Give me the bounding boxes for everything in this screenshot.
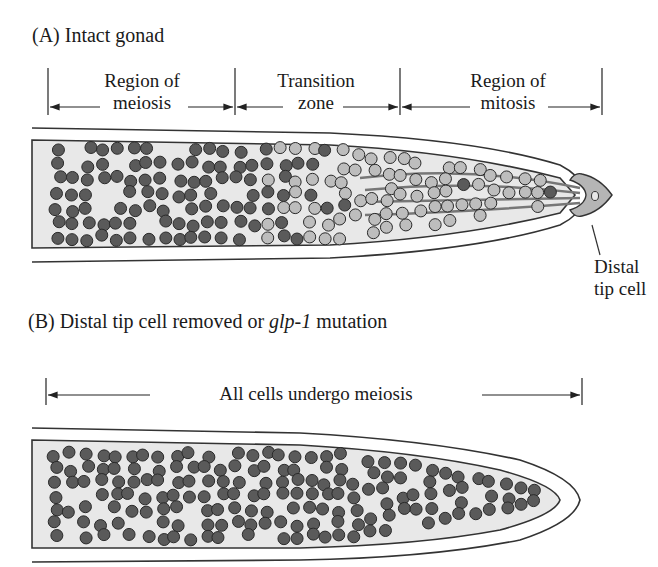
panel-a-gonad [32, 128, 612, 262]
transition-zone-label: Transition zone [268, 70, 364, 114]
region-mitosis-line1: Region of [460, 70, 556, 92]
region-meiosis-line1: Region of [92, 70, 192, 92]
region-mitosis-line2: mitosis [460, 92, 556, 114]
panel-b-title-gene: glp-1 [269, 310, 311, 332]
distal-tip-cell [570, 174, 612, 217]
panel-b-title-prefix: (B) Distal tip cell removed or [28, 310, 269, 332]
all-cells-meiosis-label: All cells undergo meiosis [150, 383, 482, 405]
panel-b-title: (B) Distal tip cell removed or glp-1 mut… [28, 310, 387, 333]
distal-tip-cell-line2: tip cell [594, 278, 658, 300]
panel-b-title-suffix: mutation [311, 310, 387, 332]
transition-zone-line2: zone [268, 92, 364, 114]
region-mitosis-label: Region of mitosis [460, 70, 556, 114]
transition-zone-line1: Transition [268, 70, 364, 92]
panel-a-title: (A) Intact gonad [32, 24, 164, 47]
region-meiosis-label: Region of meiosis [92, 70, 192, 114]
region-meiosis-line2: meiosis [92, 92, 192, 114]
panel-b-gonad [32, 428, 580, 562]
distal-tip-cell-label: Distal tip cell [594, 256, 658, 300]
distal-tip-cell-line1: Distal [594, 256, 658, 278]
